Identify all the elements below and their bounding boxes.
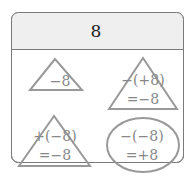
cell-1-line-1: −8 — [50, 73, 71, 89]
cell-4-line-2: =+8 — [126, 147, 158, 163]
cell-3-line-2: =−8 — [39, 147, 71, 163]
cell-4-line-1: −(−8) — [120, 128, 163, 144]
integer-sign-diagram: 8 −8 −(+8) =−8 +(−8) =−8 −(−8) =+8 — [0, 0, 191, 187]
header-number: 8 — [91, 21, 102, 41]
cell-3-line-1: +(−8) — [33, 128, 76, 144]
cell-2-line-1: −(+8) — [121, 72, 164, 88]
cell-2-line-2: =−8 — [127, 91, 159, 107]
